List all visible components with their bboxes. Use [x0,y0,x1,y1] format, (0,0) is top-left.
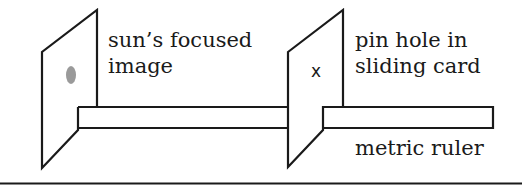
label-pinhole-line2: sliding card [355,54,481,78]
label-sun-focused-image-line2: image [108,54,173,78]
label-pinhole-line1: pin hole in [355,28,468,52]
pinhole-sliding-card [288,10,343,167]
pinhole-mark: x [311,61,321,81]
pinhole-apparatus-diagram: sun’s focused image x pin hole in slidin… [0,0,522,185]
label-metric-ruler: metric ruler [355,136,484,160]
metric-ruler [78,107,493,128]
label-sun-focused-image-line1: sun’s focused [108,28,252,52]
sun-image-spot [66,66,76,84]
image-screen-card [42,10,97,168]
